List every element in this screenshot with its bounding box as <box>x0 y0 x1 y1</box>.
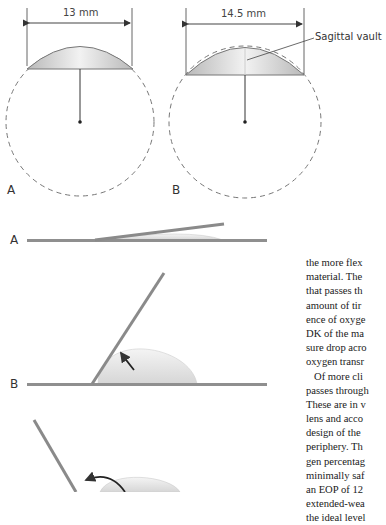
text-line: DK of the ma <box>306 327 386 341</box>
plate-c <box>34 420 180 492</box>
text-line: gen percentag <box>306 455 386 469</box>
dimension-label-a: 13 mm <box>63 7 98 18</box>
panel-a-13mm <box>6 8 154 196</box>
text-line: the more flex <box>306 256 386 270</box>
text-line: oxygen transr <box>306 355 386 369</box>
text-line: passes through <box>306 384 386 398</box>
text-line: periphery. Th <box>306 440 386 454</box>
panel-label-bottom-a: A <box>10 233 18 247</box>
dimension-label-b: 14.5 mm <box>221 8 266 19</box>
text-line: extended-wea <box>306 497 386 511</box>
text-line: These are in v <box>306 398 386 412</box>
sagittal-vault-callout: Sagittal vault <box>315 31 382 42</box>
text-line: amount of tir <box>306 299 386 313</box>
text-line: material. The <box>306 270 386 284</box>
text-line: that passes th <box>306 284 386 298</box>
panel-label-top-a: A <box>7 183 15 197</box>
text-line: lens and acco <box>306 412 386 426</box>
text-line: design of the <box>306 426 386 440</box>
text-line: an EOP of 12 <box>306 483 386 497</box>
plate-a <box>27 224 267 242</box>
text-line: sure drop acro <box>306 341 386 355</box>
panel-b-14-5mm <box>169 8 321 198</box>
text-line: Of more cli <box>306 370 386 384</box>
panel-label-bottom-b: B <box>10 377 18 391</box>
text-line: ence of oxyge <box>306 313 386 327</box>
body-text-column: the more flex material. The that passes … <box>306 256 386 525</box>
panel-label-top-b: B <box>172 183 180 197</box>
text-line: the ideal level <box>306 511 386 525</box>
text-line: minimally saf <box>306 469 386 483</box>
plate-b <box>27 273 267 386</box>
